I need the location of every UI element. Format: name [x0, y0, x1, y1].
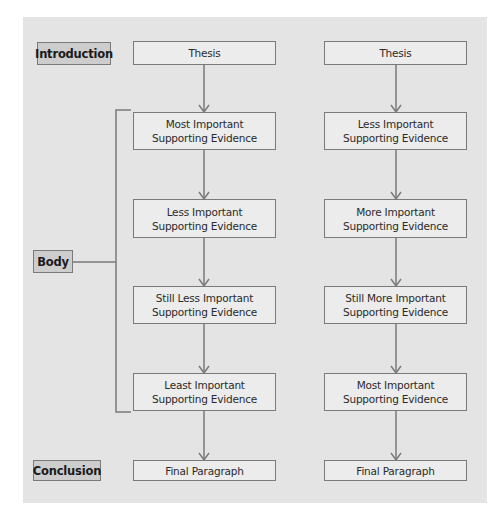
left-evidence-box-1: Most Important Supporting Evidence [133, 112, 276, 150]
node-line-1: Less Important [167, 205, 243, 219]
node-line-2: Supporting Evidence [343, 131, 448, 145]
node-line-1: Most Important [166, 117, 244, 131]
left-evidence-box-2: Less Important Supporting Evidence [133, 199, 276, 238]
connectors [0, 0, 497, 522]
left-thesis-text: Thesis [188, 46, 220, 60]
right-final-box: Final Paragraph [324, 460, 467, 481]
introduction-label: Introduction [37, 42, 111, 65]
body-bracket [116, 110, 131, 412]
body-label: Body [33, 250, 73, 273]
node-line-2: Supporting Evidence [343, 305, 448, 319]
left-evidence-box-4: Least Important Supporting Evidence [133, 373, 276, 411]
node-line-1: More Important [356, 205, 435, 219]
left-final-text: Final Paragraph [165, 464, 243, 478]
right-evidence-box-2: More Important Supporting Evidence [324, 199, 467, 238]
node-line-2: Supporting Evidence [343, 392, 448, 406]
node-line-1: Most Important [357, 378, 435, 392]
right-evidence-box-1: Less Important Supporting Evidence [324, 112, 467, 150]
left-thesis-box: Thesis [133, 41, 276, 65]
node-line-2: Supporting Evidence [152, 305, 257, 319]
node-line-2: Supporting Evidence [152, 219, 257, 233]
left-evidence-box-3: Still Less Important Supporting Evidence [133, 286, 276, 324]
node-line-2: Supporting Evidence [152, 392, 257, 406]
node-line-1: Still More Important [345, 291, 445, 305]
conclusion-label: Conclusion [33, 460, 101, 481]
node-line-1: Least Important [164, 378, 245, 392]
right-thesis-text: Thesis [379, 46, 411, 60]
node-line-2: Supporting Evidence [343, 219, 448, 233]
right-evidence-box-3: Still More Important Supporting Evidence [324, 286, 467, 324]
node-line-1: Still Less Important [156, 291, 253, 305]
right-evidence-box-4: Most Important Supporting Evidence [324, 373, 467, 411]
node-line-1: Less Important [358, 117, 434, 131]
right-final-text: Final Paragraph [356, 464, 434, 478]
right-thesis-box: Thesis [324, 41, 467, 65]
left-final-box: Final Paragraph [133, 460, 276, 481]
node-line-2: Supporting Evidence [152, 131, 257, 145]
